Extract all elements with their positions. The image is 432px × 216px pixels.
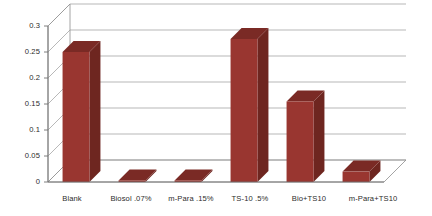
chart-container: 0.3 0.25 0.2 0.15 0.1 0.05 0 Blank Bioso… xyxy=(0,0,432,216)
y-tick-label-0: 0.3 xyxy=(8,22,40,30)
x-tick-label-ts-10: TS-10 .5% xyxy=(219,195,281,203)
x-tick-label-blank: Blank xyxy=(42,195,102,203)
y-tick-label-6: 0 xyxy=(8,178,40,186)
y-tick-label-3: 0.15 xyxy=(8,100,40,108)
chart-axes xyxy=(0,0,432,216)
y-tick-label-4: 0.1 xyxy=(8,126,40,134)
y-tick-label-1: 0.25 xyxy=(8,48,40,56)
x-tick-label-bio-ts10: Bio+TS10 xyxy=(278,195,340,203)
x-tick-label-m-para-ts10: m-Para+TS10 xyxy=(335,195,411,203)
x-tick-label-m-para: m-Para .15% xyxy=(158,195,224,203)
x-tick-label-biosol: Biosol .07% xyxy=(99,195,163,203)
y-tick-label-2: 0.2 xyxy=(8,74,40,82)
y-tick-label-5: 0.05 xyxy=(8,152,40,160)
